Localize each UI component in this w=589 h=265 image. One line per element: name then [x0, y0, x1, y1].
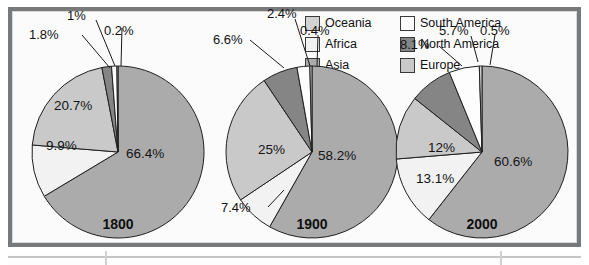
inner-value-1900-asia: 58.2%	[318, 148, 356, 163]
callout-value-2000-oceania: 0.5%	[480, 23, 510, 38]
callout-value-1900-oceania: 0.4%	[300, 23, 330, 38]
inner-label-1800-asia: 66.4%	[126, 147, 164, 161]
inner-label-1900-asia: 58.2%	[318, 149, 356, 163]
callout-value-1900-africa: 7.4%	[221, 200, 251, 215]
inner-value-2000-europe: 12%	[428, 140, 455, 155]
callout-value-2000-south-america: 5.7%	[439, 23, 469, 38]
leader-1800-north-america	[82, 35, 110, 68]
pie-1900-slices	[226, 66, 398, 238]
inner-value-2000-asia: 60.6%	[494, 154, 532, 169]
callout-1900-south-america: 2.4%	[267, 7, 297, 20]
inner-value-1900-europe: 25%	[258, 142, 285, 157]
year-label-1800: 1800	[18, 216, 218, 232]
inner-label-2000-europe: 12%	[428, 141, 455, 155]
callout-2000-south-america: 5.7%	[439, 24, 469, 37]
callout-value-1900-north-america: 6.6%	[213, 32, 243, 47]
inner-label-1800-africa: 9.9%	[46, 139, 77, 153]
inner-value-1800-africa: 9.9%	[46, 138, 77, 153]
inner-label-2000-asia: 60.6%	[494, 155, 532, 169]
inner-label-2000-africa: 13.1%	[416, 172, 454, 186]
pie-chart-2000: 8.1% 5.7% 0.5% 12% 13.1% 60.6% 2000	[382, 0, 582, 240]
callout-1900-africa: 7.4%	[221, 201, 251, 214]
inner-label-1800-europe: 20.7%	[54, 99, 92, 113]
year-text-1800: 1800	[102, 216, 133, 232]
callout-1900-oceania: 0.4%	[300, 24, 330, 37]
year-label-2000: 2000	[382, 216, 582, 232]
inner-value-1800-asia: 66.4%	[126, 146, 164, 161]
inner-value-1800-europe: 20.7%	[54, 98, 92, 113]
year-text-1900: 1900	[296, 216, 327, 232]
figure-caption-strip	[8, 251, 581, 265]
callout-value-1800-south-america: 1%	[67, 8, 86, 23]
leader-2000-oceania	[490, 35, 495, 65]
inner-label-1900-europe: 25%	[258, 143, 285, 157]
pie-chart-1800: 1.8% 1% 0.2% 20.7% 9.9% 66.4% 1800	[18, 0, 218, 240]
callout-value-1900-south-america: 2.4%	[267, 6, 297, 21]
callout-1800-north-america: 1.8%	[29, 28, 59, 41]
inner-value-2000-africa: 13.1%	[416, 171, 454, 186]
callout-value-2000-north-america: 8.1%	[400, 37, 430, 52]
figure-baseline-rule	[8, 256, 581, 258]
pie-2000-slices	[396, 66, 568, 238]
leader-2000-north-america	[439, 46, 462, 66]
year-text-2000: 2000	[466, 216, 497, 232]
pie-chart-figure: Oceania South America Africa North Ameri…	[0, 0, 589, 265]
callout-2000-north-america: 8.1%	[400, 38, 430, 51]
callout-value-1800-oceania: 0.2%	[104, 23, 134, 38]
callout-1900-north-america: 6.6%	[213, 33, 243, 46]
callout-1800-oceania: 0.2%	[104, 24, 134, 37]
callout-1800-south-america: 1%	[67, 9, 86, 22]
figure-tick-right	[500, 251, 502, 265]
callout-value-1800-north-america: 1.8%	[29, 27, 59, 42]
leader-1900-north-america	[250, 40, 284, 68]
pie-2000-leaders	[439, 35, 495, 66]
figure-tick-left	[105, 251, 107, 265]
leader-2000-south-america	[471, 36, 478, 62]
callout-2000-oceania: 0.5%	[480, 24, 510, 37]
leader-1900-oceania	[317, 35, 318, 66]
